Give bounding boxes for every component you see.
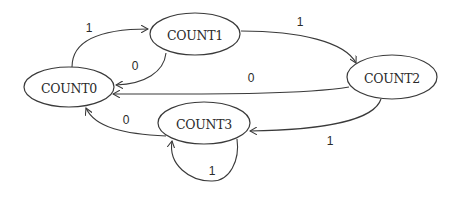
transition-count1-to-count0: 0 (116, 53, 166, 85)
transition-label: 0 (248, 71, 255, 85)
transition-label: 1 (327, 134, 334, 148)
transition-label: 1 (86, 21, 93, 35)
state-label: COUNT1 (167, 28, 223, 43)
transition-count2-to-count0: 0 (113, 71, 349, 94)
transition-count3-self-loop: 1 (172, 139, 238, 181)
transition-label: 1 (297, 15, 304, 29)
transition-count2-to-count3: 1 (250, 99, 381, 148)
state-count1: COUNT1 (150, 13, 240, 55)
transition-count3-to-count0: 0 (86, 108, 166, 136)
state-diagram: 1 0 1 0 1 0 1 COUNT0 COUNT1 COUNT2 CO (0, 0, 465, 199)
state-count3: COUNT3 (158, 102, 250, 144)
state-label: COUNT3 (176, 117, 232, 132)
transition-label: 1 (209, 164, 216, 178)
transition-label: 0 (123, 113, 130, 127)
transition-count1-to-count2: 1 (241, 15, 356, 63)
transition-label: 0 (132, 59, 139, 73)
state-label: COUNT2 (364, 71, 420, 86)
state-count0: COUNT0 (24, 67, 114, 107)
state-label: COUNT0 (41, 81, 97, 96)
state-count2: COUNT2 (347, 55, 437, 99)
